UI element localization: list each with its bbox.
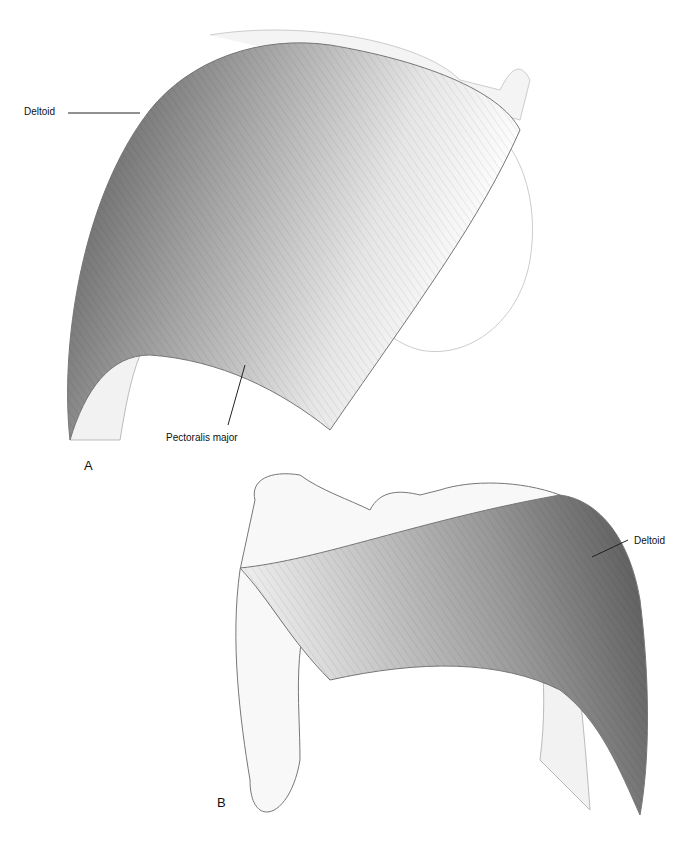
label-pectoralis-major: Pectoralis major <box>166 432 238 443</box>
panel-a-figure <box>68 30 533 440</box>
panel-b-figure <box>236 474 648 815</box>
panel-letter-a: A <box>84 458 93 473</box>
label-deltoid-b: Deltoid <box>634 535 665 546</box>
panel-letter-b: B <box>217 795 226 810</box>
label-deltoid-a: Deltoid <box>24 106 55 117</box>
anatomy-illustration <box>0 0 695 844</box>
